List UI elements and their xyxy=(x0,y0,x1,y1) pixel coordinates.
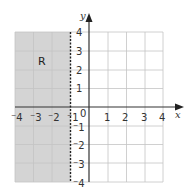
y-axis-arrow-icon xyxy=(86,13,93,22)
y-tick-label: 2 xyxy=(76,65,82,76)
y-tick-label: 1 xyxy=(76,83,82,94)
x-tick-label: 2 xyxy=(122,112,128,123)
y-tick-label: 3 xyxy=(76,46,82,57)
y-axis-label: y xyxy=(79,10,86,21)
x-tick-label: ⁻2 xyxy=(48,112,60,123)
x-axis-label: x xyxy=(175,109,181,120)
y-tick-label: ⁻1 xyxy=(73,122,85,133)
origin-label: 0 xyxy=(80,108,86,119)
x-tick-label: ⁻4 xyxy=(11,112,23,123)
x-tick-label: 1 xyxy=(104,112,110,123)
region-label: R xyxy=(38,55,46,68)
x-tick-label: ⁻3 xyxy=(30,112,42,123)
x-tick-label: 4 xyxy=(159,112,165,123)
x-tick-label: 3 xyxy=(141,112,147,123)
y-tick-label: ⁻2 xyxy=(73,140,85,151)
coordinate-plane: x y R ⁻4 ⁻3 ⁻2 ⁻1 0 1 2 3 4 4 3 2 1 ⁻1 ⁻… xyxy=(0,0,190,195)
y-tick-label: ⁻4 xyxy=(73,178,85,189)
y-tick-label: ⁻3 xyxy=(73,159,85,170)
y-tick-label: 4 xyxy=(76,27,82,38)
